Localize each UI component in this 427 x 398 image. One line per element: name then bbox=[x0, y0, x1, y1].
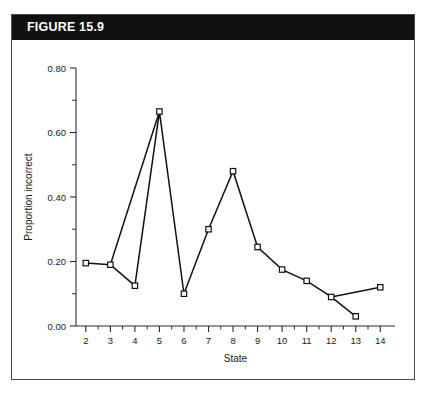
x-tick-label: 13 bbox=[350, 335, 361, 346]
data-point-marker bbox=[108, 262, 113, 267]
y-tick-label: 0.00 bbox=[48, 321, 67, 332]
x-tick-label: 2 bbox=[83, 335, 88, 346]
data-point-marker bbox=[378, 285, 383, 290]
x-axis-tick-labels: 234567891011121314 bbox=[83, 335, 385, 346]
x-tick-label: 9 bbox=[255, 335, 260, 346]
data-point-marker bbox=[353, 314, 358, 319]
x-tick-label: 5 bbox=[157, 335, 162, 346]
y-axis: 0.000.200.400.600.80 Proportion incorrec… bbox=[23, 63, 76, 332]
data-point-marker bbox=[181, 291, 186, 296]
x-tick-label: 7 bbox=[206, 335, 211, 346]
x-axis-title: State bbox=[224, 353, 248, 364]
x-tick-label: 10 bbox=[277, 335, 288, 346]
plot-area: 0.000.200.400.600.80 Proportion incorrec… bbox=[12, 40, 414, 381]
data-point-marker bbox=[255, 244, 260, 249]
x-axis-major-ticks bbox=[86, 326, 380, 332]
data-point-marker bbox=[132, 283, 137, 288]
figure-header-bar: FIGURE 15.9 bbox=[12, 15, 414, 40]
y-axis-major-ticks bbox=[70, 68, 76, 326]
line-chart: 0.000.200.400.600.80 Proportion incorrec… bbox=[12, 40, 413, 379]
data-line-branch-3-to-5 bbox=[110, 112, 159, 265]
y-axis-title: Proportion incorrect bbox=[23, 153, 34, 240]
data-point-marker bbox=[279, 267, 284, 272]
data-point-marker bbox=[83, 260, 88, 265]
y-tick-label: 0.60 bbox=[48, 127, 67, 138]
x-tick-label: 3 bbox=[108, 335, 113, 346]
x-tick-label: 8 bbox=[230, 335, 235, 346]
figure-number-label: FIGURE 15.9 bbox=[27, 20, 104, 34]
x-axis: 234567891011121314 State bbox=[76, 326, 395, 364]
x-tick-label: 4 bbox=[132, 335, 137, 346]
data-point-marker bbox=[230, 169, 235, 174]
y-tick-label: 0.40 bbox=[48, 192, 67, 203]
x-tick-label: 14 bbox=[375, 335, 386, 346]
x-tick-label: 12 bbox=[326, 335, 337, 346]
y-tick-label: 0.80 bbox=[48, 63, 67, 74]
data-point-marker bbox=[206, 227, 211, 232]
y-axis-tick-labels: 0.000.200.400.600.80 bbox=[48, 63, 67, 332]
x-tick-label: 11 bbox=[302, 335, 312, 346]
data-series-lines bbox=[86, 112, 380, 317]
data-point-marker bbox=[329, 294, 334, 299]
data-point-marker bbox=[304, 278, 309, 283]
data-line-branch-12-to-14 bbox=[331, 287, 380, 297]
x-tick-label: 6 bbox=[181, 335, 186, 346]
data-series-markers bbox=[83, 109, 383, 319]
y-tick-label: 0.20 bbox=[48, 256, 67, 267]
data-point-marker bbox=[157, 109, 162, 114]
figure-container: FIGURE 15.9 0.000.200.400.600.80 Proport… bbox=[11, 14, 415, 380]
